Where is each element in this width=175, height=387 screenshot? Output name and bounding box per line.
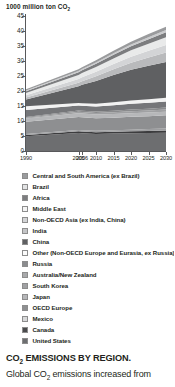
area-band — [26, 133, 166, 151]
legend-color-swatch — [22, 228, 28, 234]
legend-color-swatch — [22, 173, 28, 179]
area-layer-group — [26, 27, 166, 151]
y-axis-tick-label: 0 — [2, 148, 24, 154]
legend-item-label: Brazil — [33, 183, 49, 190]
legend-color-swatch — [22, 217, 28, 223]
legend-item[interactable]: United States — [0, 335, 174, 346]
y-axis-tick-label: 15 — [2, 103, 24, 109]
y-axis-tick-mark — [22, 61, 25, 62]
x-axis-tick-label: 2025 — [143, 155, 155, 161]
chart-axis-title-subscript: 2 — [68, 7, 71, 12]
legend-item[interactable]: Non-OECD Asia (ex India, China) — [0, 214, 174, 225]
y-axis-tick-label: 5 — [2, 133, 24, 139]
chart-axis-title-text: 1000 million ton CO — [6, 3, 68, 10]
caption-heading: CO2 EMISSIONS BY REGION. — [6, 352, 172, 368]
y-axis-tick-label: 20 — [2, 88, 24, 94]
chart-axis-title: 1000 million ton CO2 — [6, 3, 70, 12]
x-axis-tick-label: 2006 — [76, 155, 88, 161]
legend-item[interactable]: Canada — [0, 324, 174, 335]
legend-item-label: OECD Europe — [33, 304, 73, 311]
legend-item[interactable]: Central and South America (ex Brazil) — [0, 170, 174, 181]
legend-item[interactable]: Africa — [0, 192, 174, 203]
chart-legend: Central and South America (ex Brazil)Bra… — [0, 170, 174, 346]
caption-body: Global CO2 emissions increased from — [6, 368, 172, 384]
y-axis-tick-mark — [22, 91, 25, 92]
stacked-area-svg — [26, 16, 166, 151]
y-axis-tick-label: 30 — [2, 58, 24, 64]
legend-color-swatch — [22, 184, 28, 190]
legend-item-label: India — [33, 227, 47, 234]
legend-item[interactable]: China — [0, 236, 174, 247]
chart-container: 1000 million ton CO2 051015202530354045 … — [0, 0, 174, 162]
legend-item-label: Other (Non-OECD Europe and Eurasia, ex R… — [33, 249, 175, 256]
legend-item-label: Russia — [33, 260, 53, 267]
y-axis-tick-label: 40 — [2, 28, 24, 34]
caption-body-part2: emissions increased from — [50, 369, 151, 379]
legend-item[interactable]: South Korea — [0, 280, 174, 291]
legend-color-swatch — [22, 305, 28, 311]
legend-item-label: Canada — [33, 326, 55, 333]
legend-color-swatch — [22, 294, 28, 300]
legend-item-label: Middle East — [33, 205, 66, 212]
legend-item[interactable]: Middle East — [0, 203, 174, 214]
plot-area — [26, 16, 166, 151]
legend-color-swatch — [22, 239, 28, 245]
x-axis-tick-label: 2030 — [160, 155, 172, 161]
y-axis-tick-mark — [22, 16, 25, 17]
legend-item[interactable]: Russia — [0, 258, 174, 269]
legend-item-label: Mexico — [33, 315, 53, 322]
y-axis-tick-label: 35 — [2, 43, 24, 49]
legend-item[interactable]: Mexico — [0, 313, 174, 324]
legend-color-swatch — [22, 283, 28, 289]
legend-color-swatch — [22, 338, 28, 344]
legend-color-swatch — [22, 195, 28, 201]
legend-color-swatch — [22, 327, 28, 333]
y-axis-tick-mark — [22, 31, 25, 32]
legend-color-swatch — [22, 206, 28, 212]
legend-color-swatch — [22, 272, 28, 278]
x-axis-tick-label: 1990 — [20, 155, 32, 161]
legend-item-label: Non-OECD Asia (ex India, China) — [33, 216, 126, 223]
legend-item-label: Australia/New Zealand — [33, 271, 97, 278]
x-axis-tick-label: 2010 — [90, 155, 102, 161]
y-axis-tick-label: 45 — [2, 13, 24, 19]
x-axis-tick-label: 2020 — [125, 155, 137, 161]
legend-color-swatch — [22, 250, 28, 256]
legend-item[interactable]: India — [0, 225, 174, 236]
legend-item[interactable]: OECD Europe — [0, 302, 174, 313]
legend-item-label: United States — [33, 337, 71, 344]
y-axis-tick-mark — [22, 121, 25, 122]
legend-item-label: China — [33, 238, 50, 245]
caption-block: CO2 EMISSIONS BY REGION. Global CO2 emis… — [6, 352, 172, 384]
x-axis-tick-label: 2015 — [108, 155, 120, 161]
legend-item[interactable]: Other (Non-OECD Europe and Eurasia, ex R… — [0, 247, 174, 258]
y-axis-tick-label: 25 — [2, 73, 24, 79]
legend-item-label: Africa — [33, 194, 50, 201]
y-axis-tick-mark — [22, 136, 25, 137]
legend-color-swatch — [22, 316, 28, 322]
y-axis-tick-mark — [22, 46, 25, 47]
y-axis-tick-mark — [22, 76, 25, 77]
legend-item-label: Central and South America (ex Brazil) — [33, 172, 140, 179]
legend-item[interactable]: Japan — [0, 291, 174, 302]
legend-item-label: South Korea — [33, 282, 69, 289]
legend-item[interactable]: Australia/New Zealand — [0, 269, 174, 280]
caption-body-part1: Global CO — [6, 369, 47, 379]
caption-heading-rest: EMISSIONS BY REGION. — [23, 353, 131, 363]
y-axis-tick-label: 10 — [2, 118, 24, 124]
y-axis-tick-mark — [22, 151, 25, 152]
caption-heading-prefix: CO — [6, 353, 20, 363]
y-axis-tick-mark — [22, 106, 25, 107]
legend-item-label: Japan — [33, 293, 50, 300]
legend-color-swatch — [22, 261, 28, 267]
legend-item[interactable]: Brazil — [0, 181, 174, 192]
